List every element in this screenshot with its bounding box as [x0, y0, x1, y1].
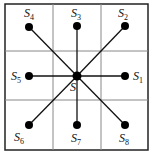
node-s3	[73, 22, 81, 30]
label-s5: S5	[11, 69, 21, 85]
label-s2: S2	[118, 6, 128, 22]
label-s3: S3	[71, 6, 81, 22]
label-center: S	[70, 80, 76, 94]
node-s8	[121, 121, 129, 129]
label-s6: S6	[14, 130, 24, 146]
node-s6	[25, 121, 33, 129]
label-s1: S1	[133, 69, 143, 85]
node-s4	[25, 23, 33, 31]
node-s5	[25, 72, 33, 80]
label-s8: S8	[119, 131, 129, 147]
node-s1	[121, 72, 129, 80]
node-s7	[73, 121, 81, 129]
label-s4: S4	[24, 6, 34, 22]
neighborhood-diagram: S S1 S2 S3 S4 S5 S6 S7 S8	[0, 0, 154, 155]
label-s7: S7	[71, 131, 81, 147]
node-s2	[121, 22, 129, 30]
